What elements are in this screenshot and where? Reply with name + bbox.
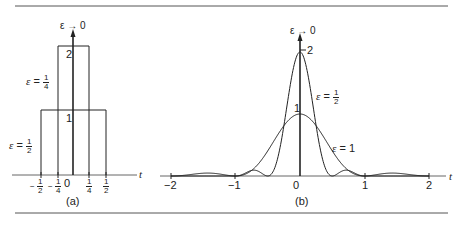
panel-a-label-eps-quarter: ε = 14 <box>26 74 49 91</box>
panel-b-axis-label: t <box>449 171 452 182</box>
panel-a-label-eps-half: ε = 12 <box>9 138 32 155</box>
panel-b-height-1: 1 <box>294 103 300 114</box>
panel-a-axis-label: t <box>139 169 142 180</box>
panel-b-label-eps-half: ε = 12 <box>316 89 339 106</box>
panel-b-tick-neg1: −1 <box>228 180 241 191</box>
panel-b-label-eps-1: ε = 1 <box>332 143 355 154</box>
panel-b-tick-2: 2 <box>426 180 432 191</box>
panel-a-tick-neg-quarter: − 14 <box>48 178 61 195</box>
panel-b-height-2: 2 <box>307 45 313 56</box>
panel-b-tick-zero: 0 <box>293 180 299 191</box>
panel-a-tick-zero: 0 <box>64 178 70 189</box>
panel-b-tick-neg2: −2 <box>164 180 177 191</box>
panel-a-height-2: 2 <box>66 49 72 60</box>
panel-a-arrow-label: ε → 0 <box>60 20 86 31</box>
panel-a-caption: (a) <box>66 196 79 207</box>
panel-a-tick-neg-half: − 12 <box>30 178 43 195</box>
panel-b-plot <box>160 33 446 179</box>
panel-b-caption: (b) <box>295 196 308 207</box>
panel-a-height-1: 1 <box>66 113 72 124</box>
panel-b-arrow-label: ε → 0 <box>290 25 316 36</box>
panel-a-tick-half: 12 <box>103 178 109 195</box>
panel-a-plot <box>12 29 137 178</box>
panel-a-tick-quarter: 14 <box>86 178 92 195</box>
panel-b-tick-1: 1 <box>362 180 368 191</box>
